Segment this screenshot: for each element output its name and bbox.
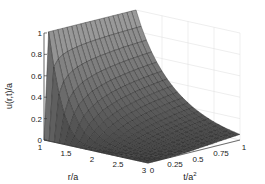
svg-text:1: 1 xyxy=(38,143,43,152)
svg-text:1: 1 xyxy=(38,29,43,38)
surface-plot: 00.20.40.60.8111.522.5300.250.50.751 u(r… xyxy=(0,0,265,184)
svg-text:0.2: 0.2 xyxy=(31,115,43,124)
y-axis-label: t/a2 xyxy=(183,171,197,182)
svg-text:0.4: 0.4 xyxy=(31,93,43,102)
svg-text:0.5: 0.5 xyxy=(192,155,204,164)
svg-text:1.5: 1.5 xyxy=(60,149,72,158)
svg-text:0.8: 0.8 xyxy=(31,50,43,59)
svg-text:2: 2 xyxy=(90,155,95,164)
svg-text:0: 0 xyxy=(150,166,155,175)
surface-mesh xyxy=(44,10,240,163)
svg-text:3: 3 xyxy=(142,166,147,175)
svg-text:1: 1 xyxy=(242,143,247,152)
z-axis-label: u(r,t)/a xyxy=(4,83,14,109)
svg-text:0.25: 0.25 xyxy=(167,160,183,169)
svg-text:0.75: 0.75 xyxy=(213,149,229,158)
svg-text:0.6: 0.6 xyxy=(31,72,43,81)
svg-text:2.5: 2.5 xyxy=(112,160,124,169)
x-axis-label: r/a xyxy=(68,172,79,182)
